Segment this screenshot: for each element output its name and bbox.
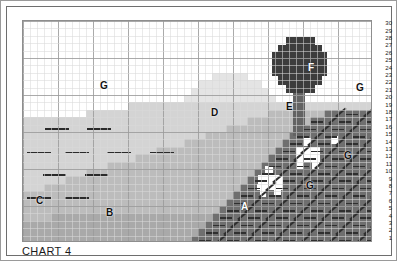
row-number: 15 [376, 131, 392, 138]
row-number: 18 [376, 109, 392, 116]
region-label-g-sky-right: G [356, 83, 364, 93]
grid-line-horizontal [23, 28, 372, 29]
row-number: 22 [376, 79, 392, 86]
grid-line-horizontal [23, 43, 372, 44]
chart-canvas [23, 21, 372, 242]
grid-line-horizontal [23, 110, 372, 111]
grid-line-horizontal [23, 236, 372, 237]
stitch-dash [367, 210, 372, 212]
row-number: 19 [376, 102, 392, 109]
row-number: 20 [376, 94, 392, 101]
grid-line-major-horizontal [23, 58, 372, 59]
row-number: 12 [376, 153, 392, 160]
row-number: 21 [376, 87, 392, 94]
grid-line-horizontal [23, 199, 372, 200]
grid-line-horizontal [23, 102, 372, 103]
stitch-dash [367, 121, 372, 123]
row-number: 2 [376, 227, 392, 234]
row-number: 5 [376, 205, 392, 212]
row-number: 26 [376, 50, 392, 57]
grid-line-major-horizontal [23, 95, 372, 96]
grid-line-horizontal [23, 191, 372, 192]
stitch-dash [367, 180, 372, 182]
grid-line-horizontal [23, 117, 372, 118]
grid-line-major-horizontal [23, 169, 372, 170]
row-number: 3 [376, 220, 392, 227]
row-number: 10 [376, 168, 392, 175]
grid-line-horizontal [23, 221, 372, 222]
row-number: 28 [376, 35, 392, 42]
row-number: 9 [376, 176, 392, 183]
grid-line-horizontal [23, 184, 372, 185]
row-number: 1 [376, 235, 392, 242]
grid-line-major-horizontal [23, 206, 372, 207]
row-number: 25 [376, 57, 392, 64]
grid-line-horizontal [23, 125, 372, 126]
region-label-g-sheep-upper: G [344, 151, 352, 161]
row-number: 29 [376, 28, 392, 35]
grid-line-horizontal [23, 73, 372, 74]
row-number: 6 [376, 198, 392, 205]
row-number: 24 [376, 65, 392, 72]
row-number: 30 [376, 20, 392, 27]
region-label-g-sheep-lower: G [306, 181, 314, 191]
row-number: 8 [376, 183, 392, 190]
page-frame: G D F E G G G A B C 30292827262524232221… [6, 6, 392, 256]
stitch-long-dash [43, 174, 67, 176]
row-number: 13 [376, 146, 392, 153]
grid-line-horizontal [23, 36, 372, 37]
chart-page: G D F E G G G A B C 30292827262524232221… [0, 0, 397, 261]
row-number: 7 [376, 190, 392, 197]
stitch-dash [367, 151, 372, 153]
grid-line-major-horizontal [23, 21, 372, 22]
stitch-long-dash [27, 152, 51, 154]
region-label-c: C [36, 196, 43, 206]
region-label-e: E [286, 102, 293, 112]
grid-line-horizontal [23, 80, 372, 81]
grid-line-horizontal [23, 228, 372, 229]
region-label-d: D [211, 108, 218, 118]
row-number: 4 [376, 213, 392, 220]
region-label-g-sky-left: G [100, 81, 108, 91]
row-number: 17 [376, 116, 392, 123]
grid-line-horizontal [23, 176, 372, 177]
grid-line-horizontal [23, 139, 372, 140]
row-number-axis: 3029282726252423222120191817161514131211… [374, 20, 394, 242]
grid-line-horizontal [23, 162, 372, 163]
grid-line-horizontal [23, 65, 372, 66]
chart-grid[interactable]: G D F E G G G A B C [22, 20, 372, 242]
row-number: 27 [376, 42, 392, 49]
stitch-dash [367, 240, 372, 242]
row-number: 16 [376, 124, 392, 131]
region-label-b: B [106, 208, 113, 218]
row-number: 11 [376, 161, 392, 168]
chart-caption: CHART 4 [22, 245, 71, 257]
grid-line-horizontal [23, 88, 372, 89]
region-label-a: A [241, 202, 248, 212]
grid-line-horizontal [23, 154, 372, 155]
grid-line-horizontal [23, 147, 372, 148]
row-number: 23 [376, 72, 392, 79]
grid-line-major-horizontal [23, 132, 372, 133]
stitch-long-dash [85, 174, 109, 176]
row-number: 14 [376, 139, 392, 146]
grid-line-horizontal [23, 213, 372, 214]
region-label-f: F [308, 63, 314, 73]
grid-line-horizontal [23, 51, 372, 52]
